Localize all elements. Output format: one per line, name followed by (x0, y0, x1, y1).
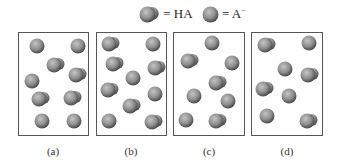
a-minus-particle-icon (277, 61, 293, 77)
a-minus-particle-icon (34, 113, 50, 129)
ha-particle-icon (299, 113, 315, 129)
a-minus-particle-icon (125, 70, 141, 86)
ha-particle-icon (147, 60, 163, 76)
ha-particle-icon (257, 37, 273, 53)
ha-particle-icon (144, 114, 160, 130)
ha-particle-icon (105, 56, 121, 72)
panel-label-c: (c) (189, 145, 229, 157)
ha-particle-icon (46, 57, 62, 73)
ha-particle-icon (122, 98, 138, 114)
a-minus-particle-icon (24, 73, 40, 89)
a-minus-particle-icon (178, 112, 194, 128)
panel-d (251, 32, 323, 136)
ha-particle-icon (208, 113, 224, 129)
ha-particle-icon (180, 53, 196, 69)
ha-particle-icon (31, 91, 47, 107)
panel-label-a: (a) (33, 145, 73, 157)
a-minus-particle-icon (101, 113, 117, 129)
a-minus-particle-icon (66, 113, 82, 129)
panel-label-b: (b) (111, 145, 151, 157)
a-minus-particle-icon (220, 93, 236, 109)
ha-particle-icon (101, 36, 117, 52)
a-minus-particle-icon (202, 6, 219, 23)
a-minus-particle-icon (186, 88, 202, 104)
a-minus-particle-icon (147, 86, 163, 102)
ha-particle-icon (68, 67, 84, 83)
ha-particle-icon (139, 6, 160, 23)
legend-item-a-minus: = A− (202, 5, 246, 23)
legend-item-ha: = HA (139, 5, 193, 23)
ha-particle-icon (255, 81, 271, 97)
a-minus-particle-icon (224, 55, 240, 71)
a-minus-particle-icon (204, 35, 220, 51)
legend-label-a-minus: = A− (222, 6, 246, 22)
ha-particle-icon (63, 90, 79, 106)
panel-c (173, 32, 245, 136)
a-minus-particle-icon (145, 36, 161, 52)
legend: = HA = A− (0, 2, 337, 26)
panel-label-d: (d) (267, 145, 307, 157)
ha-particle-icon (208, 75, 224, 91)
a-minus-particle-icon (259, 108, 275, 124)
ha-particle-icon (300, 67, 316, 83)
a-minus-particle-icon (301, 35, 317, 51)
panel-b (96, 32, 167, 136)
a-minus-particle-icon (29, 38, 45, 54)
panel-a (18, 32, 89, 136)
legend-label-ha: = HA (163, 6, 192, 22)
a-minus-particle-icon (281, 88, 297, 104)
a-minus-particle-icon (70, 38, 86, 54)
ha-particle-icon (100, 82, 116, 98)
